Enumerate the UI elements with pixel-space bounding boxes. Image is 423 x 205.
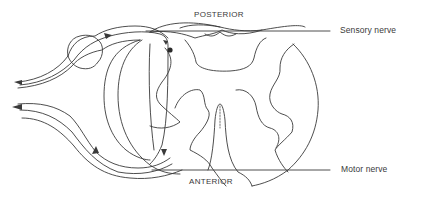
dorsal-root-ganglion (68, 35, 103, 69)
motor-nerve-label: Motor nerve (341, 164, 387, 174)
right-grey-matter (270, 44, 294, 172)
sensory-nerve-label: Sensory nerve (340, 25, 396, 35)
cell-body-dot (167, 47, 172, 52)
anterior-grey-left (175, 90, 226, 186)
downward-arrow-icon (161, 149, 167, 156)
upward-arrow-icon (92, 146, 99, 154)
anterior-label: ANTERIOR (189, 177, 233, 186)
posterior-grey-matter (185, 38, 266, 71)
inner-loop-left (104, 40, 150, 160)
anterior-median-fissure (208, 104, 252, 186)
reflex-arc-diagram: POSTERIOR ANTERIOR Sensory nerve Motor n… (0, 0, 423, 205)
sensory-nerve-inner (18, 40, 140, 88)
anterior-grey-right (236, 90, 279, 148)
sensory-nerve-outer (18, 26, 168, 82)
incoming-arrow-icon (14, 80, 22, 85)
left-grey-matter (150, 48, 180, 128)
inner-loop-right (149, 44, 154, 150)
posterior-label: POSTERIOR (194, 10, 244, 19)
outgoing-arrow-icon (12, 104, 22, 110)
